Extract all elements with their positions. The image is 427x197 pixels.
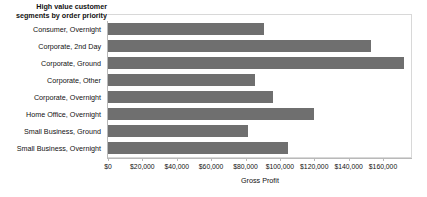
category-label: Corporate, Other <box>0 72 105 89</box>
x-axis-line <box>107 158 412 159</box>
bars-area <box>108 21 412 157</box>
x-axis-tick-label: $0 <box>104 163 112 170</box>
x-axis-tick-label: $160,000 <box>369 163 397 170</box>
bar-home-office-overnight[interactable] <box>108 108 314 120</box>
bar-corporate-ground[interactable] <box>108 57 404 69</box>
bar-row <box>108 106 412 123</box>
x-axis-tick-label: $40,000 <box>164 163 189 170</box>
bar-row <box>108 123 412 140</box>
x-axis-tick <box>177 158 178 161</box>
bar-row <box>108 55 412 72</box>
bar-row <box>108 38 412 55</box>
bar-corporate-overnight[interactable] <box>108 91 273 103</box>
x-axis-tick-label: $60,000 <box>199 163 224 170</box>
bar-small-business-overnight[interactable] <box>108 142 288 154</box>
x-axis-tick <box>280 158 281 161</box>
x-axis-tick-label: $120,000 <box>300 163 328 170</box>
x-axis-tick-label: $20,000 <box>130 163 155 170</box>
bar-consumer-overnight[interactable] <box>108 23 264 35</box>
x-axis-tick <box>349 158 350 161</box>
bar-row <box>108 140 412 157</box>
category-label: Small Business, Ground <box>0 123 105 140</box>
x-axis-tick-label: $100,000 <box>266 163 294 170</box>
bar-corporate-other[interactable] <box>108 74 255 86</box>
x-axis-tick-label: $80,000 <box>233 163 258 170</box>
category-axis: Consumer, Overnight Corporate, 2nd Day C… <box>0 21 105 157</box>
bar-row <box>108 21 412 38</box>
bar-row <box>108 89 412 106</box>
category-label: Corporate, Ground <box>0 55 105 72</box>
bar-small-business-ground[interactable] <box>108 125 248 137</box>
bar-corporate-2nd-day[interactable] <box>108 40 371 52</box>
x-axis-tick <box>211 158 212 161</box>
category-label: Small Business, Overnight <box>0 140 105 157</box>
x-axis-title: Gross Profit <box>108 176 412 185</box>
x-axis-tick <box>108 158 109 161</box>
x-axis-tick <box>314 158 315 161</box>
category-label: Consumer, Overnight <box>0 21 105 38</box>
category-label: Home Office, Overnight <box>0 106 105 123</box>
category-label: Corporate, 2nd Day <box>0 38 105 55</box>
category-label: Corporate, Overnight <box>0 89 105 106</box>
x-axis-tick <box>246 158 247 161</box>
x-axis-tick <box>383 158 384 161</box>
x-axis-tick-label: $140,000 <box>334 163 362 170</box>
x-axis-tick <box>142 158 143 161</box>
chart-title: High value customer segments by order pr… <box>8 2 107 21</box>
bar-row <box>108 72 412 89</box>
horizontal-bar-chart: High value customer segments by order pr… <box>0 0 427 197</box>
